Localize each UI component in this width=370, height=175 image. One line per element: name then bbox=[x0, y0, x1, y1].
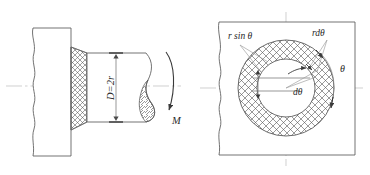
flange-block bbox=[33, 28, 71, 156]
right-view: r sin θ rdθ dθ θ bbox=[219, 22, 355, 155]
arc-element-label: rdθ bbox=[312, 28, 325, 38]
angle-element-label: dθ bbox=[293, 87, 303, 97]
angle-label: θ bbox=[340, 63, 345, 74]
torque-arrow bbox=[166, 52, 174, 110]
chord-label: r sin θ bbox=[228, 31, 253, 41]
torque-label: M bbox=[171, 115, 182, 126]
engineering-figure: D=2r M r sin θ rdθ bbox=[0, 0, 370, 175]
friction-contact-face bbox=[71, 47, 87, 130]
left-view: D=2r M bbox=[33, 28, 182, 156]
figure-canvas: D=2r M r sin θ rdθ bbox=[0, 0, 370, 175]
diameter-label: D=2r bbox=[105, 75, 116, 101]
